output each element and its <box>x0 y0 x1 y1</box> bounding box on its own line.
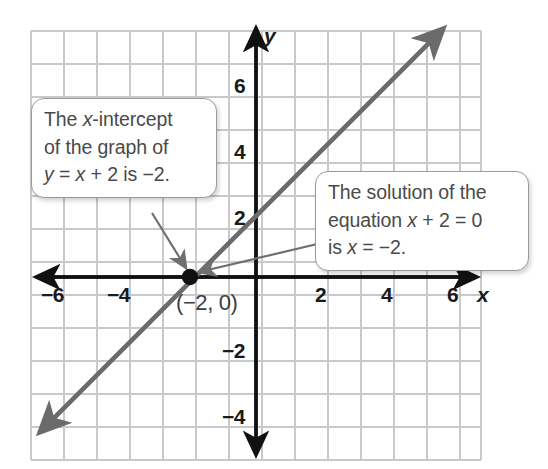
callout-left-line-3: y = x + 2 is −2. <box>44 161 204 189</box>
y-tick-label-neg4: −4 <box>222 405 245 429</box>
x-intercept-callout: The x-intercept of the graph of y = x + … <box>31 98 217 198</box>
x-axis-name: x <box>477 283 489 307</box>
x-tick-label-4: 4 <box>381 283 392 307</box>
y-axis-name: y <box>264 24 276 48</box>
callout-right-line-1: The solution of the <box>328 179 516 207</box>
x-tick-label-6: 6 <box>447 283 458 307</box>
x-intercept-point-label: (−2, 0) <box>176 290 237 316</box>
x-intercept-point-marker <box>182 269 198 285</box>
y-tick-label-6: 6 <box>234 74 245 98</box>
solution-callout: The solution of the equation x + 2 = 0 i… <box>315 171 529 271</box>
left-callout-pointer-arrow <box>152 213 186 268</box>
callout-right-line-3: is x = −2. <box>328 234 516 262</box>
x-tick-label-2: 2 <box>315 283 326 307</box>
x-tick-label-neg6: −6 <box>41 283 64 307</box>
callout-left-line-2: of the graph of <box>44 134 204 162</box>
y-tick-label-2: 2 <box>234 206 245 230</box>
y-tick-label-4: 4 <box>234 140 245 164</box>
x-tick-label-neg4: −4 <box>107 283 130 307</box>
y-tick-label-neg2: −2 <box>222 339 245 363</box>
callout-right-line-2: equation x + 2 = 0 <box>328 207 516 235</box>
coordinate-graph-figure: −6 −4 2 4 6 x 6 4 2 −2 −4 y (−2, 0) The … <box>0 0 548 469</box>
right-callout-pointer-arrow <box>199 241 330 272</box>
callout-left-line-1: The x-intercept <box>44 106 204 134</box>
